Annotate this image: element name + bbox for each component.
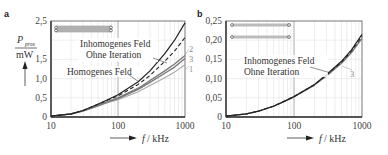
y-axis-arrow-icon (23, 61, 28, 86)
svg-text:1000: 1000 (176, 121, 195, 131)
svg-text:0,05: 0,05 (205, 93, 222, 103)
annotation-ohne-iteration: Ohne Iteration (86, 50, 141, 60)
svg-text:100: 100 (111, 121, 126, 131)
figure: a 00,51,01,52,5 101001000 P prox mW Inho… (0, 0, 388, 155)
x-axis-label-unit: / kHz (147, 133, 170, 144)
two-conductor-inset-icon (231, 24, 291, 39)
svg-text:1,5: 1,5 (35, 54, 47, 64)
curve-label-1: 1 (189, 64, 193, 74)
panel-a-y-ticks: 00,51,01,52,5 (35, 16, 47, 122)
svg-text:1,0: 1,0 (35, 74, 47, 84)
svg-text:0,5: 0,5 (35, 93, 47, 103)
svg-text:10: 10 (221, 121, 231, 131)
y-axis-label-subscript: prox (24, 41, 35, 47)
panel-a-label: a (4, 9, 10, 19)
y-axis-label-symbol: P (16, 34, 23, 45)
annotation-inhomogenes-feld-b: Inhomogenes Feld (244, 56, 315, 66)
svg-text:0,20: 0,20 (205, 35, 222, 45)
x-axis-label-symbol-b: f (319, 133, 323, 144)
panel-b-x-ticks: 101001000 (221, 121, 372, 131)
curve-label-3: 3 (189, 54, 193, 64)
curve-label-3-b: 3 (350, 69, 354, 79)
x-axis-label-symbol: f (142, 133, 146, 144)
x-axis-label-unit-b: / kHz (324, 133, 347, 144)
annotation-inhomogenes-feld: Inhomogenes Feld (80, 39, 151, 49)
svg-text:2,5: 2,5 (35, 16, 47, 26)
y-axis-label-unit: mW (16, 49, 34, 60)
annotation-ohne-iteration-b: Ohne Iteration (244, 67, 299, 77)
panel-b-y-ticks: 00,050,100,150,200,25 (205, 16, 222, 122)
svg-text:1000: 1000 (353, 121, 372, 131)
svg-text:0,25: 0,25 (205, 16, 222, 26)
x-axis-arrow-icon (110, 136, 137, 141)
annotation-homogenes-feld: Homogenes Feld (67, 67, 132, 77)
svg-text:100: 100 (287, 121, 302, 131)
svg-text:0,10: 0,10 (205, 74, 222, 84)
conductor-inset-icon (55, 26, 113, 32)
panel-a-x-ticks: 101001000 (46, 121, 195, 131)
svg-text:0,15: 0,15 (205, 54, 222, 64)
panel-b-label: b (197, 9, 203, 19)
x-axis-arrow-icon-b (287, 136, 314, 141)
svg-text:10: 10 (46, 121, 56, 131)
curve-label-2: 2 (189, 44, 193, 54)
